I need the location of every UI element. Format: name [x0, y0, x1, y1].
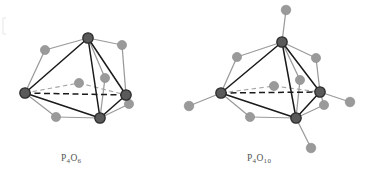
atom-oxygen: [232, 52, 241, 61]
atom-oxygen-terminal: [184, 101, 194, 111]
atom-oxygen-terminal: [345, 97, 355, 107]
molecular-structure-figure: [0, 0, 368, 182]
atom-oxygen: [295, 75, 304, 84]
atom-oxygen: [74, 78, 83, 87]
caption-p4o6-element-2: O: [70, 153, 77, 163]
caption-p4o6: P4O6: [61, 153, 81, 163]
caption-p4o10: P4O10: [247, 153, 271, 163]
caption-p4o10-sub-2: 10: [264, 157, 272, 165]
atom-oxygen: [40, 45, 49, 54]
atom-oxygen: [319, 100, 328, 109]
atom-phosphorus: [216, 88, 226, 98]
atom-phosphorus: [83, 33, 93, 43]
atom-phosphorus: [315, 87, 325, 97]
atom-oxygen: [100, 73, 109, 82]
atom-oxygen: [51, 112, 60, 121]
atom-phosphorus: [121, 90, 131, 100]
atom-oxygen: [311, 53, 320, 62]
atom-phosphorus: [291, 113, 301, 123]
atom-oxygen: [269, 81, 278, 90]
caption-p4o10-sub-1: 4: [253, 157, 257, 165]
atom-phosphorus: [20, 88, 30, 98]
caption-p4o6-sub-1: 4: [67, 157, 71, 165]
atom-oxygen-terminal: [306, 143, 316, 153]
caption-p4o6-element-1: P: [61, 153, 67, 163]
caption-p4o10-element-2: O: [256, 153, 263, 163]
atom-oxygen-terminal: [281, 5, 291, 15]
atom-oxygen: [245, 112, 254, 121]
atom-oxygen: [117, 40, 126, 49]
atom-phosphorus: [277, 37, 287, 47]
caption-p4o10-element-1: P: [247, 153, 253, 163]
caption-p4o6-sub-2: 6: [78, 157, 82, 165]
atom-phosphorus: [95, 113, 105, 123]
